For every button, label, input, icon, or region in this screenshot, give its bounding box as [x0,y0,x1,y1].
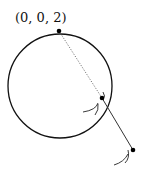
north-pole-label: (0, 0, 2) [15,10,67,25]
north-pole-point [57,29,62,34]
projection-line [102,98,133,150]
angle-arc-2 [114,154,128,165]
sphere-point [100,96,105,101]
dotted-line [59,31,102,98]
diagram: (0, 0, 2) [0,0,147,177]
sphere-circle [8,34,112,138]
projected-point [131,148,136,153]
angle-arc-1 [83,103,98,112]
